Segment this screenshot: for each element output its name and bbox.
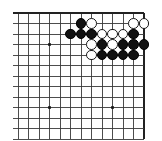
star-point — [48, 106, 51, 109]
black-stone — [128, 50, 139, 61]
black-stone — [86, 29, 97, 40]
black-stone — [128, 29, 139, 40]
white-stone — [107, 39, 118, 50]
star-point — [48, 43, 51, 46]
star-point — [111, 106, 114, 109]
go-board-diagram — [0, 0, 162, 141]
white-stone — [139, 18, 150, 29]
black-stone — [139, 39, 150, 50]
white-stone — [86, 18, 97, 29]
black-stone — [65, 29, 76, 40]
black-stone — [128, 39, 139, 50]
white-stone — [128, 18, 139, 29]
white-stone — [107, 29, 118, 40]
black-stone — [76, 18, 87, 29]
black-stone — [97, 39, 108, 50]
black-stone — [107, 50, 118, 61]
black-stone — [118, 39, 129, 50]
white-stone — [86, 39, 97, 50]
white-stone — [86, 50, 97, 61]
